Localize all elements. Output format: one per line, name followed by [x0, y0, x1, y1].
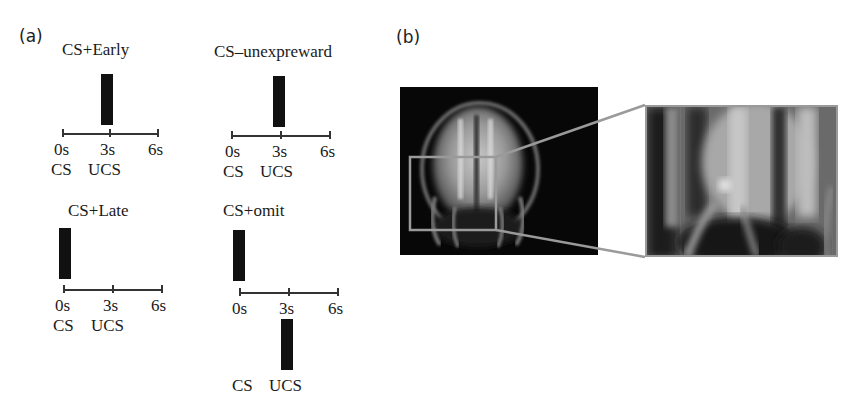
brain-slice-graphic — [400, 87, 598, 255]
panel-a-label: (a) — [19, 26, 43, 46]
cs-bar — [59, 228, 71, 279]
tick-label-3s: 3s — [279, 299, 294, 319]
ucs-bar — [101, 74, 113, 125]
event-label-ucs: UCS — [269, 376, 302, 396]
axis-tick — [161, 285, 163, 293]
panel-b-label: (b) — [396, 27, 420, 47]
tick-label-6s: 6s — [328, 299, 343, 319]
axis-tick — [231, 131, 233, 139]
axis-tick — [109, 129, 111, 137]
tick-label-3s: 3s — [100, 140, 115, 160]
axis-tick — [112, 285, 114, 293]
axis-tick — [62, 129, 64, 137]
axis-tick — [280, 131, 282, 139]
tick-label-3s: 3s — [272, 142, 287, 162]
tick-label-6s: 6s — [151, 296, 166, 316]
tick-label-3s: 3s — [103, 296, 118, 316]
ucs-bar — [281, 319, 293, 370]
tick-label-0s: 0s — [55, 296, 70, 316]
event-label-cs: CS — [223, 162, 244, 182]
event-label-cs: CS — [53, 316, 74, 336]
axis-tick — [239, 288, 241, 296]
tick-label-0s: 0s — [232, 299, 247, 319]
magnified-brain-graphic — [647, 107, 838, 257]
condition-title: CS+Early — [62, 40, 129, 60]
tick-label-0s: 0s — [225, 142, 240, 162]
condition-title: CS+omit — [223, 201, 285, 221]
time-axis — [62, 133, 159, 135]
condition-title: CS–unexpreward — [214, 42, 332, 62]
axis-tick — [288, 288, 290, 296]
event-label-cs: CS — [232, 376, 253, 396]
tick-label-0s: 0s — [54, 140, 69, 160]
cs-bar — [233, 230, 245, 281]
event-label-ucs: UCS — [88, 160, 121, 180]
tick-label-6s: 6s — [148, 140, 163, 160]
axis-tick — [329, 131, 331, 139]
axis-tick — [63, 285, 65, 293]
event-label-cs: CS — [51, 160, 72, 180]
event-label-ucs: UCS — [260, 162, 293, 182]
brain-mri-image — [400, 87, 598, 255]
axis-tick — [337, 288, 339, 296]
magnified-inset — [645, 105, 838, 257]
axis-tick — [157, 129, 159, 137]
ucs-bar — [273, 76, 285, 127]
condition-title: CS+Late — [68, 201, 129, 221]
event-label-ucs: UCS — [91, 316, 124, 336]
tick-label-6s: 6s — [320, 142, 335, 162]
